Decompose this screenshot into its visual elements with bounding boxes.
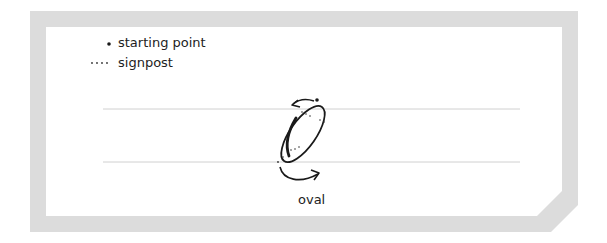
oval-letter-figure (273, 98, 332, 180)
legend-label-starting-point: starting point (118, 36, 206, 49)
letter-caption: oval (298, 192, 325, 207)
signpost-dots-icon (91, 62, 108, 64)
bottom-arrow-icon (280, 167, 318, 180)
legend-label-signpost: signpost (118, 56, 173, 69)
oval-stroke (273, 100, 332, 169)
start-point-marker (315, 98, 319, 102)
legend-item-starting-point: starting point (118, 36, 206, 49)
starting-point-icon (107, 42, 111, 46)
legend-item-signpost: signpost (118, 56, 173, 69)
